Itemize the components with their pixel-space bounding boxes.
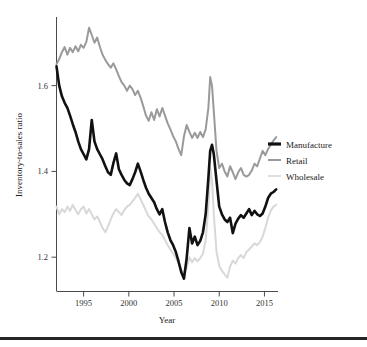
chart-legend: ManufactureRetailWholesale xyxy=(268,140,332,182)
series-lines xyxy=(57,28,277,279)
y-axis-ticks: 1.21.41.6 xyxy=(37,81,56,263)
line-chart-canvas: 1.21.41.6 19952000200520102015 Inventory… xyxy=(0,0,367,347)
x-axis-title: Year xyxy=(159,315,176,325)
x-tick-label: 2000 xyxy=(120,298,137,308)
chart-figure: 1.21.41.6 19952000200520102015 Inventory… xyxy=(0,0,367,347)
legend-label-manufacture: Manufacture xyxy=(286,140,332,150)
x-tick-label: 1995 xyxy=(75,298,92,308)
y-tick-label: 1.2 xyxy=(37,252,48,262)
legend-label-wholesale: Wholesale xyxy=(286,172,324,182)
y-axis-title: Inventory-to-sales ratio xyxy=(14,112,24,197)
y-tick-label: 1.4 xyxy=(37,166,48,176)
x-tick-label: 2010 xyxy=(211,298,228,308)
y-tick-label: 1.6 xyxy=(37,81,48,91)
legend-label-retail: Retail xyxy=(286,156,308,166)
x-axis-ticks: 19952000200520102015 xyxy=(75,292,273,309)
x-tick-label: 2005 xyxy=(166,298,183,308)
series-line-retail xyxy=(57,28,277,179)
footer-divider xyxy=(0,337,367,340)
x-tick-label: 2015 xyxy=(256,298,273,308)
